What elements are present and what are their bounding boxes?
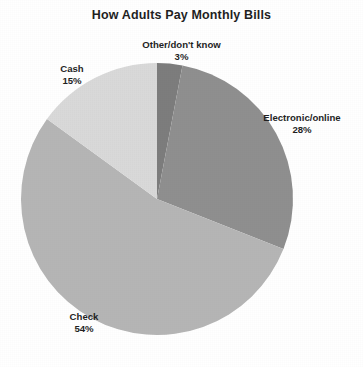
- pie-label-electronic-online-name: Electronic/online: [249, 112, 355, 124]
- pie-label-cash-percent: 15%: [36, 75, 108, 87]
- pie-label-cash-name: Cash: [36, 63, 108, 75]
- pie-label-other-dont-know-name: Other/don't know: [0, 39, 363, 51]
- pie-label-electronic-online: Electronic/online 28%: [249, 112, 355, 137]
- pie-label-electronic-online-percent: 28%: [249, 124, 355, 136]
- pie-slices: [21, 63, 293, 335]
- pie-label-other-dont-know: Other/don't know 3%: [0, 39, 363, 64]
- pie-chart-figure: How Adults Pay Monthly Bills Other/don't…: [0, 0, 363, 367]
- pie-label-cash: Cash 15%: [36, 63, 108, 88]
- pie-label-other-dont-know-percent: 3%: [0, 51, 363, 63]
- pie-label-check-percent: 54%: [46, 323, 122, 335]
- pie-label-check: Check 54%: [46, 311, 122, 336]
- pie-label-check-name: Check: [46, 311, 122, 323]
